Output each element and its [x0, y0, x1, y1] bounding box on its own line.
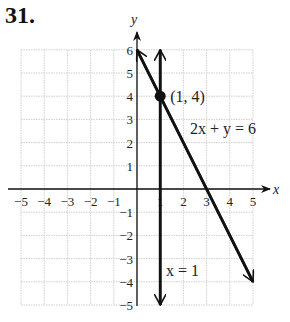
x-tick-label: −4 — [37, 194, 51, 209]
y-tick-label: 1 — [127, 159, 134, 174]
x-tick-label: 4 — [227, 194, 234, 209]
equation-label-x-eq-1: x = 1 — [166, 262, 199, 279]
x-tick-label: −5 — [14, 194, 28, 209]
y-tick-label: 3 — [127, 112, 134, 127]
y-tick-label: 5 — [127, 66, 134, 81]
x-axis-label: x — [272, 182, 280, 197]
y-tick-label: −5 — [119, 298, 133, 313]
x-tick-label: 5 — [250, 194, 257, 209]
intersection-point — [155, 91, 166, 102]
y-tick-label: −1 — [119, 205, 133, 220]
x-tick-label: −3 — [60, 194, 74, 209]
y-tick-label: 6 — [127, 43, 134, 58]
coordinate-graph: xy−5−4−3−2−112345654321−1−2−3−4−52x + y … — [0, 0, 290, 322]
y-tick-label: −3 — [119, 252, 133, 267]
equation-label-2x-plus-y: 2x + y = 6 — [190, 120, 256, 138]
y-tick-label: −4 — [119, 275, 133, 290]
y-tick-label: 2 — [127, 136, 134, 151]
y-tick-label: −2 — [119, 228, 133, 243]
y-tick-label: 4 — [127, 89, 134, 104]
intersection-label: (1, 4) — [170, 88, 205, 106]
x-tick-label: −2 — [84, 194, 98, 209]
y-axis-label: y — [129, 12, 138, 27]
x-tick-label: 2 — [180, 194, 187, 209]
